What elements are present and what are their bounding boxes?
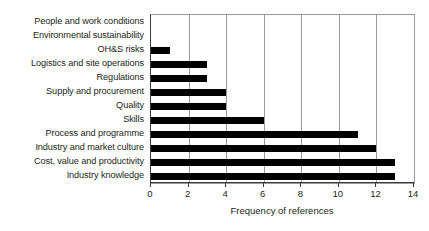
x-axis-tick-label: 6 xyxy=(260,188,265,200)
bar-row xyxy=(151,99,414,113)
bar-row xyxy=(151,169,414,183)
bar xyxy=(151,173,395,180)
x-axis-tick xyxy=(300,183,301,187)
x-axis-tick xyxy=(225,183,226,187)
category-label: Industry knowledge xyxy=(0,168,148,182)
x-axis-tick-label: 12 xyxy=(370,188,381,200)
x-axis-title: Frequency of references xyxy=(150,205,414,217)
bar-row xyxy=(151,85,414,99)
bar-series xyxy=(151,15,414,183)
bar xyxy=(151,145,376,152)
x-axis-tick xyxy=(338,183,339,187)
bar-row xyxy=(151,71,414,85)
category-label: Logistics and site operations xyxy=(0,56,148,70)
bar-chart: People and work conditionsEnvironmental … xyxy=(0,0,429,231)
bar xyxy=(151,117,264,124)
category-label: Cost, value and productivity xyxy=(0,154,148,168)
x-axis-tick-label: 0 xyxy=(147,188,152,200)
x-axis-tick-label: 4 xyxy=(222,188,227,200)
bar xyxy=(151,89,226,96)
category-label: Environmental sustainability xyxy=(0,28,148,42)
bar xyxy=(151,47,170,54)
bar-row xyxy=(151,141,414,155)
bar xyxy=(151,75,207,82)
x-axis-tick-label: 10 xyxy=(333,188,344,200)
category-label: Supply and procurement xyxy=(0,84,148,98)
category-label: OH&S risks xyxy=(0,42,148,56)
x-axis-tick-label: 2 xyxy=(185,188,190,200)
bar-row xyxy=(151,43,414,57)
bar-row xyxy=(151,113,414,127)
plot-area xyxy=(150,14,415,184)
bar-row xyxy=(151,127,414,141)
x-axis-tick xyxy=(413,183,414,187)
x-axis-tick xyxy=(188,183,189,187)
category-label: Industry and market culture xyxy=(0,140,148,154)
bar xyxy=(151,103,226,110)
category-label: Process and programme xyxy=(0,126,148,140)
x-axis-tick xyxy=(263,183,264,187)
category-label: Quality xyxy=(0,98,148,112)
bar-row xyxy=(151,29,414,43)
x-axis-tick-label: 8 xyxy=(298,188,303,200)
bar-row xyxy=(151,15,414,29)
category-label: Skills xyxy=(0,112,148,126)
bar-row xyxy=(151,57,414,71)
category-label: Regulations xyxy=(0,70,148,84)
x-axis-tick xyxy=(150,183,151,187)
x-axis-tick xyxy=(375,183,376,187)
bar-row xyxy=(151,155,414,169)
category-label: People and work conditions xyxy=(0,14,148,28)
bar xyxy=(151,61,207,68)
bar xyxy=(151,159,395,166)
category-axis-labels: People and work conditionsEnvironmental … xyxy=(0,14,148,182)
x-axis-tick-label: 14 xyxy=(408,188,419,200)
bar xyxy=(151,131,358,138)
x-axis-tick-labels: 02468101214 xyxy=(150,188,414,202)
